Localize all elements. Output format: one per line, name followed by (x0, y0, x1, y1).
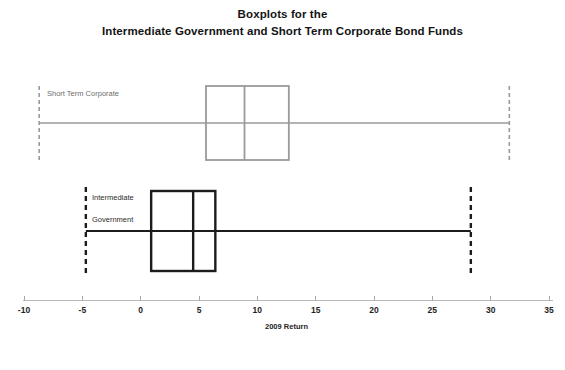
x-axis-tick (82, 296, 83, 301)
x-axis-line (23, 300, 553, 301)
boxplot-intermediate-government (86, 187, 471, 275)
x-axis-title: 2009 Return (265, 322, 308, 331)
boxplot-canvas (0, 0, 565, 300)
series-label-line-1: Intermediate (92, 193, 134, 202)
x-axis-tick (432, 296, 433, 301)
x-axis-tick (315, 296, 316, 301)
series-label-line-2: Government (92, 215, 133, 224)
x-axis-tick-label: -5 (79, 305, 87, 315)
x-axis-tick-label: 35 (544, 305, 553, 315)
x-axis-tick-label: 5 (197, 305, 202, 315)
x-axis-tick (24, 296, 25, 301)
chart-figure: Boxplots for the Intermediate Government… (0, 0, 565, 370)
x-axis-tick-label: 15 (311, 305, 320, 315)
x-axis-tick (374, 296, 375, 301)
x-axis-tick-label: 25 (428, 305, 437, 315)
x-axis-tick-label: 10 (253, 305, 262, 315)
plot-area: Short Term Corporate Intermediate Govern… (0, 0, 565, 370)
x-axis-tick-label: 0 (138, 305, 143, 315)
series-label-short-term-corporate: Short Term Corporate (47, 88, 119, 99)
x-axis-tick (199, 296, 200, 301)
x-axis-tick (549, 296, 550, 301)
x-axis-tick-label: -10 (18, 305, 30, 315)
x-axis-tick (257, 296, 258, 301)
x-axis-tick (140, 296, 141, 301)
series-label-intermediate-government: Intermediate Government (92, 181, 134, 225)
x-axis-tick (490, 296, 491, 301)
x-axis-tick-label: 30 (486, 305, 495, 315)
x-axis-tick-label: 20 (369, 305, 378, 315)
